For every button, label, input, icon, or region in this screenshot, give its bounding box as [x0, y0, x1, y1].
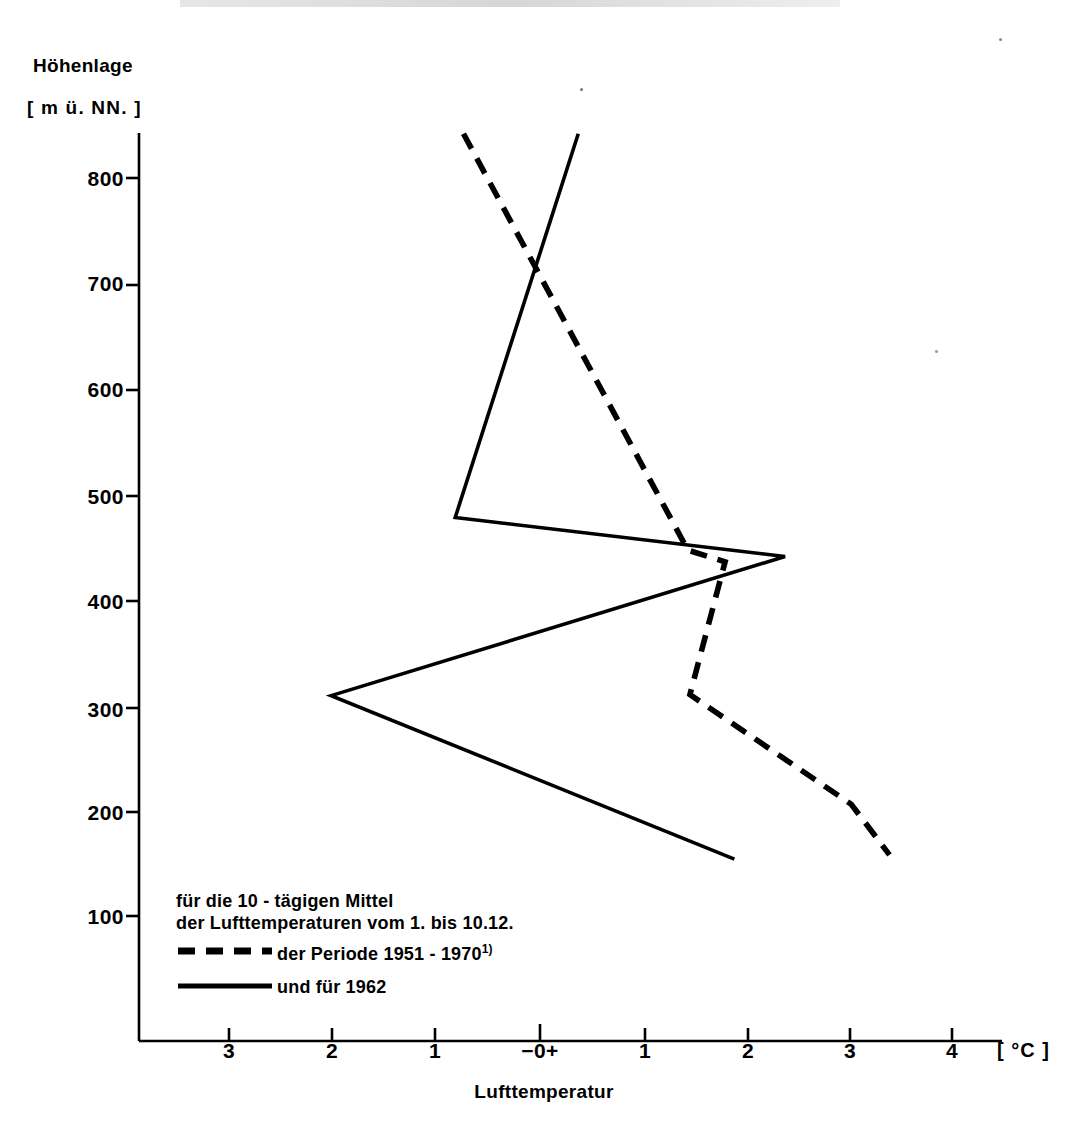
plot-area	[0, 0, 1088, 1132]
x-tick-marks	[229, 1024, 952, 1041]
y-tick-marks	[126, 178, 139, 916]
series-line-1951-1970	[463, 134, 889, 855]
chart-canvas: Höhenlage [ m ü. NN. ] 800 700 600 500 4…	[0, 0, 1088, 1132]
series-line-1962	[331, 134, 785, 859]
